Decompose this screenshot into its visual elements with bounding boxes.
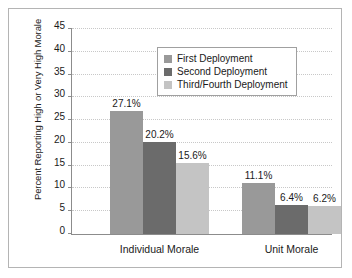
legend-swatch-icon <box>164 55 172 63</box>
y-axis-tick-label: 35 <box>54 65 65 76</box>
y-axis-tick-label: 5 <box>59 202 65 213</box>
y-axis-tick-label: 15 <box>54 156 65 167</box>
bar-fill <box>242 183 275 234</box>
y-axis-tick-mark <box>68 74 72 75</box>
y-axis-tick-mark <box>68 165 72 166</box>
y-axis-tick-mark <box>68 119 72 120</box>
y-axis-tick-mark <box>68 96 72 97</box>
y-axis-tick-mark <box>68 233 72 234</box>
bar-value-label: 20.2% <box>145 129 173 140</box>
chart-legend: First DeploymentSecond DeploymentThird/F… <box>157 47 297 96</box>
bar-value-label: 6.4% <box>280 192 303 203</box>
y-axis-tick-mark <box>68 187 72 188</box>
y-axis-tick-label: 40 <box>54 42 65 53</box>
y-axis-tick-mark <box>68 51 72 52</box>
legend-item[interactable]: Second Deployment <box>164 65 288 78</box>
legend-swatch-icon <box>164 68 172 76</box>
bar[interactable]: 20.2% <box>143 142 176 234</box>
y-axis-tick-label: 10 <box>54 179 65 190</box>
y-axis-tick-mark <box>68 142 72 143</box>
bar-fill <box>275 205 308 234</box>
bar[interactable]: 27.1% <box>110 111 143 234</box>
bar-fill <box>308 206 341 234</box>
legend-item[interactable]: Third/Fourth Deployment <box>164 78 288 91</box>
bar-value-label: 27.1% <box>112 98 140 109</box>
legend-swatch-icon <box>164 81 172 89</box>
legend-item-label: Third/Fourth Deployment <box>177 79 288 90</box>
bar[interactable]: 15.6% <box>176 163 209 234</box>
bar-fill <box>110 111 143 234</box>
y-axis-tick-mark <box>68 210 72 211</box>
bar[interactable]: 11.1% <box>242 183 275 234</box>
bar-value-label: 11.1% <box>245 170 273 181</box>
bar[interactable]: 6.4% <box>275 205 308 234</box>
category-label: Individual Morale <box>120 243 199 255</box>
bar[interactable]: 6.2% <box>308 206 341 234</box>
y-axis-tick-mark <box>68 28 72 29</box>
y-axis-tick-label: 0 <box>59 225 65 236</box>
y-axis-title: Percent Reporting High or Very High Mora… <box>32 10 43 210</box>
bar-fill <box>143 142 176 234</box>
y-axis-tick-label: 20 <box>54 133 65 144</box>
y-axis-tick-label: 30 <box>54 88 65 99</box>
category-label: Unit Morale <box>265 243 319 255</box>
bar-value-label: 15.6% <box>178 150 206 161</box>
bar-fill <box>176 163 209 234</box>
y-axis-tick-label: 45 <box>54 20 65 31</box>
legend-item-label: Second Deployment <box>177 66 267 77</box>
y-axis-tick-label: 25 <box>54 111 65 122</box>
legend-item[interactable]: First Deployment <box>164 52 288 65</box>
bar-value-label: 6.2% <box>313 193 336 204</box>
chart-figure: Percent Reporting High or Very High Mora… <box>8 8 342 268</box>
legend-item-label: First Deployment <box>177 53 253 64</box>
